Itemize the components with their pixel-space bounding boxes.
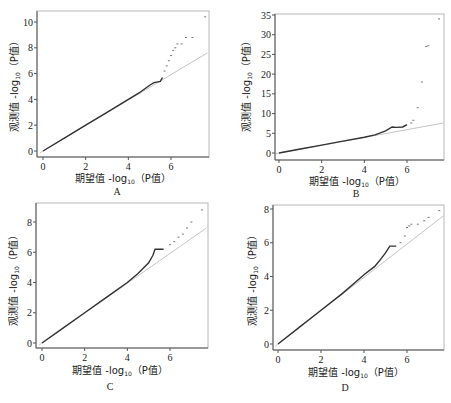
panel-d-x-axis-label: 期望值 -log10（P值） — [308, 366, 404, 379]
panel-a-y-ticks: 0246810 — [23, 17, 37, 157]
observed-point — [423, 220, 425, 221]
x-tick-label: 2 — [83, 161, 88, 172]
x-tick-label: 4 — [362, 164, 367, 175]
plot-frame — [37, 11, 209, 157]
y-tick-label: 8 — [27, 217, 32, 228]
observed-point — [421, 82, 423, 83]
y-tick-label: 2 — [264, 305, 269, 316]
x-tick-label: 2 — [82, 352, 87, 363]
x-tick-label: 0 — [40, 352, 45, 363]
panel-b-y-ticks: 05101520253035 — [261, 10, 275, 159]
y-tick-label: 0 — [264, 339, 269, 350]
y-tick-label: 2 — [28, 120, 33, 131]
panel-c-x-axis-label: 期望值 -log10（P值） — [72, 364, 168, 377]
observed-point — [173, 241, 175, 242]
y-tick-label: 10 — [23, 17, 33, 28]
observed-point — [169, 244, 171, 245]
y-tick-label: 30 — [261, 29, 271, 40]
y-tick-label: 10 — [261, 108, 271, 119]
y-tick-label: 0 — [28, 146, 33, 157]
observed-line — [279, 125, 407, 153]
x-tick-label: 2 — [319, 164, 324, 175]
observed-point — [408, 225, 410, 226]
observed-point — [186, 228, 188, 229]
y-tick-label: 20 — [261, 69, 271, 80]
observed-point — [182, 234, 184, 235]
observed-point — [417, 224, 419, 225]
observed-point — [178, 237, 180, 238]
panel-b-x-axis-label: 期望值 -log10（P值） — [309, 175, 405, 188]
observed-point — [417, 107, 419, 108]
observed-point — [400, 242, 402, 243]
x-tick-label: 6 — [168, 352, 173, 363]
plot-frame — [36, 203, 208, 348]
panel-a-x-ticks: 0246 — [41, 157, 174, 172]
panel-a-caption: A — [113, 186, 121, 197]
panel-c-y-axis-label: 观测值 -log10（P值） — [7, 230, 20, 326]
x-tick-label: 0 — [276, 354, 281, 365]
observed-point — [425, 46, 427, 47]
observed-line — [42, 249, 164, 343]
y-tick-label: 4 — [264, 271, 269, 282]
observed-line — [43, 77, 162, 151]
observed-point — [166, 65, 168, 66]
x-tick-label: 4 — [126, 161, 131, 172]
panel-b-plot-area — [275, 14, 444, 160]
panel-d-x-ticks: 0246 — [276, 350, 410, 365]
x-tick-label: 4 — [362, 354, 367, 365]
y-tick-label: 6 — [264, 237, 269, 248]
observed-point — [406, 227, 408, 228]
panel-d-y-axis-label: 观测值 -log10（P值） — [246, 230, 259, 326]
panel-b-caption: B — [353, 188, 360, 199]
panel-a-y-axis-label: 观测值 -log10（P值） — [8, 36, 21, 132]
observed-point — [168, 60, 170, 61]
panel-a: 0246810 0246 期望值 -log10（P值） 观测值 -log10（P… — [8, 11, 209, 197]
y-tick-label: 35 — [261, 10, 271, 21]
y-tick-label: 5 — [266, 128, 271, 139]
observed-point — [170, 55, 172, 56]
x-tick-label: 6 — [405, 354, 410, 365]
panel-c-x-ticks: 0246 — [40, 348, 173, 363]
panel-b-x-ticks: 0246 — [277, 160, 410, 175]
observed-point — [427, 45, 429, 46]
x-tick-label: 6 — [405, 164, 410, 175]
panel-d-y-ticks: 02468 — [264, 204, 273, 350]
observed-point — [201, 209, 203, 210]
panel-d-caption: D — [341, 382, 348, 393]
panel-d-plot-area — [273, 205, 444, 350]
qq-plot-figure: 0246810 0246 期望值 -log10（P值） 观测值 -log10（P… — [0, 0, 451, 403]
observed-point — [410, 123, 412, 124]
observed-point — [438, 18, 440, 19]
y-tick-label: 25 — [261, 49, 271, 60]
y-tick-label: 8 — [264, 204, 269, 215]
observed-point — [412, 120, 414, 121]
observed-point — [190, 222, 192, 223]
panel-c-caption: C — [107, 381, 114, 392]
y-tick-label: 4 — [27, 277, 32, 288]
y-tick-label: 15 — [261, 88, 271, 99]
panel-c-y-ticks: 02468 — [27, 217, 36, 349]
panel-a-plot-area — [37, 11, 209, 157]
y-tick-label: 6 — [28, 68, 33, 79]
panel-d: 02468 0246 期望值 -log10（P值） 观测值 -log10（P值）… — [246, 204, 444, 394]
y-tick-label: 0 — [266, 148, 271, 159]
x-tick-label: 0 — [41, 161, 46, 172]
observed-point — [191, 37, 193, 38]
x-tick-label: 2 — [319, 354, 324, 365]
observed-point — [204, 16, 206, 17]
y-tick-label: 6 — [27, 247, 32, 258]
x-tick-label: 0 — [277, 164, 282, 175]
y-tick-label: 4 — [28, 94, 33, 105]
y-tick-label: 2 — [27, 307, 32, 318]
y-tick-label: 8 — [28, 42, 33, 53]
y-tick-label: 0 — [27, 338, 32, 349]
observed-point — [172, 50, 174, 51]
observed-point — [176, 43, 178, 44]
observed-point — [438, 210, 440, 211]
x-tick-label: 6 — [169, 161, 174, 172]
panel-a-x-axis-label: 期望值 -log10（P值） — [75, 172, 171, 185]
observed-point — [404, 236, 406, 237]
observed-point — [181, 43, 183, 44]
observed-point — [174, 47, 176, 48]
observed-point — [185, 37, 187, 38]
